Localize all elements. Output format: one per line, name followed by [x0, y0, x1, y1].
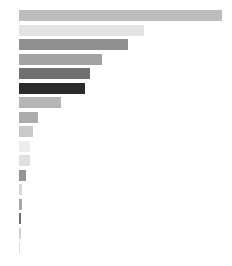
plot-area: 55555555555555555 [0, 0, 232, 266]
y-axis-tick-clip: 5 [0, 157, 19, 165]
y-axis-tick-clip: 5 [0, 172, 19, 180]
bar-row: 5 [0, 228, 232, 239]
bar-row: 5 [0, 83, 232, 94]
bar [19, 126, 33, 137]
bar [19, 83, 85, 94]
y-axis-tick-clip: 5 [0, 27, 19, 35]
bar-row: 5 [0, 10, 232, 21]
y-axis-tick-clip: 5 [0, 230, 19, 238]
bar-row: 5 [0, 184, 232, 195]
bar-row: 5 [0, 213, 232, 224]
bar-row: 5 [0, 97, 232, 108]
bar [19, 184, 22, 195]
bar [19, 54, 102, 65]
y-axis-tick-clip: 5 [0, 128, 19, 136]
bar-chart: 55555555555555555 [0, 0, 232, 266]
bar [19, 199, 22, 210]
bar-row: 5 [0, 199, 232, 210]
bar [19, 228, 21, 239]
bar-row: 5 [0, 39, 232, 50]
bar [19, 155, 30, 166]
y-axis-tick-clip: 5 [0, 143, 19, 151]
y-axis-tick-clip: 5 [0, 244, 19, 252]
y-axis-tick-clip: 5 [0, 85, 19, 93]
bar [19, 141, 30, 152]
y-axis-tick-clip: 5 [0, 56, 19, 64]
y-axis-tick-clip: 5 [0, 201, 19, 209]
bar [19, 25, 144, 36]
bar-row: 5 [0, 155, 232, 166]
y-axis-tick-clip: 5 [0, 99, 19, 107]
bar-row: 5 [0, 54, 232, 65]
bar-row: 5 [0, 25, 232, 36]
bar [19, 10, 222, 21]
bar [19, 213, 21, 224]
bar-row: 5 [0, 141, 232, 152]
bar [19, 242, 20, 253]
y-axis-tick-clip: 5 [0, 70, 19, 78]
bar [19, 112, 38, 123]
bar-row: 5 [0, 126, 232, 137]
bar [19, 39, 128, 50]
y-axis-tick-clip: 5 [0, 12, 19, 20]
y-axis-tick-clip: 5 [0, 41, 19, 49]
bar-row: 5 [0, 170, 232, 181]
bar [19, 68, 90, 79]
bar-row: 5 [0, 242, 232, 253]
y-axis-tick-clip: 5 [0, 215, 19, 223]
bar-row: 5 [0, 68, 232, 79]
y-axis-tick-clip: 5 [0, 114, 19, 122]
bar [19, 170, 26, 181]
bar-row: 5 [0, 112, 232, 123]
bar [19, 97, 61, 108]
y-axis-tick-clip: 5 [0, 186, 19, 194]
